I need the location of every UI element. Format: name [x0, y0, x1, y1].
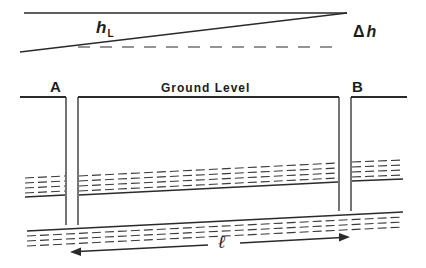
aquifer-diagram — [0, 0, 426, 268]
well-a — [66, 97, 78, 225]
delta-symbol: Δ — [353, 23, 365, 40]
delta-h-label: Δh — [353, 24, 376, 40]
delta-h-variable: h — [367, 23, 377, 40]
ground-level-label: Ground Level — [161, 82, 250, 94]
well-a-label: A — [50, 79, 61, 94]
head-loss-symbol: h — [96, 18, 106, 37]
upper-aquifer-layer — [25, 160, 403, 197]
arrowhead-right-icon — [339, 233, 350, 242]
lower-aquifer-layer — [27, 212, 403, 246]
arrowhead-left-icon — [70, 248, 81, 257]
head-loss-subscript: L — [107, 28, 113, 39]
head-loss-label: hL — [96, 19, 114, 36]
distance-label: ℓ — [218, 233, 226, 251]
well-b — [339, 97, 351, 211]
well-b-label: B — [352, 79, 363, 94]
piezometric-line — [20, 13, 347, 52]
